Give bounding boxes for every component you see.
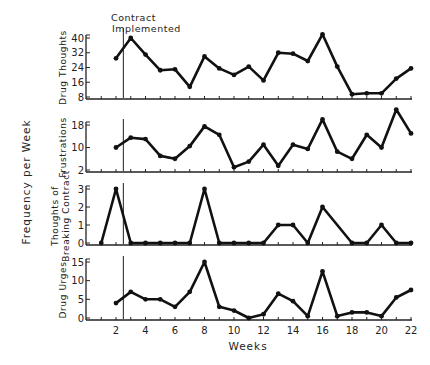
data-point (409, 288, 414, 293)
data-point (394, 295, 399, 300)
x-tick-label: 6 (172, 325, 178, 336)
data-point (305, 147, 310, 152)
y-tick-label: 1 (78, 220, 84, 231)
data-point (291, 142, 296, 147)
data-point (202, 187, 207, 192)
data-point (350, 241, 355, 246)
data-point (261, 78, 266, 83)
panel-drug-urges: 051015Drug Urges246810121416182022 (58, 256, 417, 336)
data-point (128, 36, 133, 41)
data-point (320, 32, 325, 37)
panel-label: Thoughts of (50, 186, 60, 247)
data-point (202, 124, 207, 129)
data-point (99, 241, 104, 246)
data-point (143, 52, 148, 57)
data-point (158, 68, 163, 73)
y-tick-label: 2 (78, 165, 84, 176)
data-point (202, 260, 207, 265)
x-tick-label: 10 (228, 325, 241, 336)
data-point (158, 241, 163, 246)
data-point (305, 314, 310, 319)
y-axis-label: Frequency per Week (20, 119, 32, 244)
data-point (202, 54, 207, 59)
data-series-line (101, 189, 411, 243)
data-point (364, 132, 369, 137)
data-point (291, 299, 296, 304)
contract-annotation-line2: Implemented (112, 23, 181, 34)
data-point (217, 241, 222, 246)
panel-label: Frustrations (58, 117, 68, 178)
chart-panels: 816243240Drug Thoughts21018Frustrations0… (50, 28, 417, 336)
data-point (187, 144, 192, 149)
x-tick-label: 18 (346, 325, 359, 336)
data-point (379, 223, 384, 228)
data-point (232, 72, 237, 77)
data-point (246, 241, 251, 246)
y-tick-label: 18 (71, 120, 84, 131)
panel-thoughts-of-breaking-contract: 0123Thoughts ofBreaking Contract (50, 170, 413, 262)
y-tick-label: 0 (78, 313, 84, 324)
data-point (350, 156, 355, 161)
data-point (232, 241, 237, 246)
x-tick-label: 14 (287, 325, 300, 336)
y-tick-label: 15 (71, 257, 84, 268)
data-point (291, 51, 296, 56)
data-point (394, 76, 399, 81)
data-point (261, 142, 266, 147)
y-tick-label: 8 (78, 92, 84, 103)
data-point (128, 241, 133, 246)
x-tick-label: 16 (316, 325, 329, 336)
x-tick-label: 12 (257, 325, 270, 336)
data-point (232, 165, 237, 170)
data-point (246, 64, 251, 69)
data-point (173, 304, 178, 309)
y-tick-label: 2 (78, 202, 84, 213)
data-point (173, 241, 178, 246)
data-point (305, 241, 310, 246)
data-point (114, 187, 119, 192)
y-tick-label: 0 (78, 238, 84, 249)
data-point (173, 67, 178, 72)
data-point (114, 56, 119, 61)
data-point (187, 241, 192, 246)
data-point (335, 314, 340, 319)
data-point (291, 223, 296, 228)
data-point (364, 241, 369, 246)
data-point (232, 308, 237, 313)
x-tick-label: 22 (405, 325, 418, 336)
data-point (320, 117, 325, 122)
data-point (246, 159, 251, 164)
data-series-line (116, 110, 411, 168)
y-tick-label: 10 (71, 142, 84, 153)
data-point (305, 59, 310, 64)
multi-panel-line-chart: 816243240Drug Thoughts21018Frustrations0… (0, 0, 430, 365)
x-tick-label: 2 (113, 325, 119, 336)
data-point (276, 50, 281, 55)
data-point (158, 297, 163, 302)
data-point (173, 156, 178, 161)
data-series-line (116, 34, 411, 94)
panel-label: Drug Thoughts (58, 30, 68, 105)
x-tick-label: 20 (375, 325, 388, 336)
data-point (394, 107, 399, 112)
y-tick-label: 16 (71, 77, 84, 88)
data-point (379, 145, 384, 150)
data-point (128, 135, 133, 140)
data-point (217, 66, 222, 71)
data-point (143, 297, 148, 302)
x-tick-label: 4 (142, 325, 148, 336)
contract-annotation-line1: Contract (111, 12, 156, 23)
data-point (364, 91, 369, 96)
panel-label: Breaking Contract (61, 170, 71, 262)
panel-frustrations: 21018Frustrations (58, 107, 413, 178)
data-point (187, 84, 192, 89)
data-point (394, 241, 399, 246)
data-point (409, 241, 414, 246)
data-point (350, 310, 355, 315)
panel-drug-thoughts: 816243240Drug Thoughts (58, 28, 413, 105)
data-point (276, 163, 281, 168)
data-point (379, 314, 384, 319)
data-point (114, 145, 119, 150)
data-point (217, 132, 222, 137)
data-point (335, 149, 340, 154)
